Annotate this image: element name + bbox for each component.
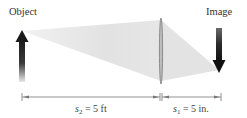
object-arrow-icon (16, 30, 29, 82)
image-distance-value: = 5 in. (183, 103, 209, 114)
incident-light-beam (22, 20, 161, 81)
image-distance-subscript: 1 (177, 108, 181, 116)
image-distance-label: s1 = 5 in. (173, 104, 209, 116)
lens-icon (159, 18, 162, 84)
object-label: Object (9, 7, 37, 18)
object-distance-subscript: 2 (79, 108, 83, 116)
refracted-light-beam (161, 20, 219, 81)
dimension-line (22, 93, 221, 101)
object-distance-value: = 5 ft (85, 103, 107, 114)
image-label: Image (206, 7, 232, 18)
object-distance-label: s2 = 5 ft (75, 104, 107, 116)
optics-diagram (0, 0, 247, 118)
